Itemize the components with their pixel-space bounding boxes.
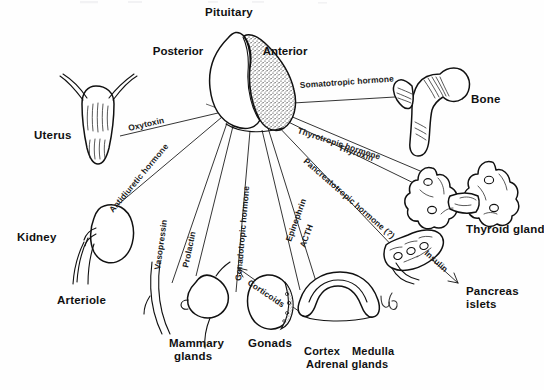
adrenal-organ xyxy=(298,272,379,321)
label-pituitary: Pituitary xyxy=(205,6,253,18)
label-pancreas-line2: islets xyxy=(466,298,497,310)
label-bone: Bone xyxy=(471,93,501,105)
scan-artifact-row xyxy=(80,1,327,4)
label-hormone-antidiuretic: Antidiuretic hormone xyxy=(107,141,171,214)
label-hormone-somatotropic: Somatotropic hormone xyxy=(299,73,394,90)
handwritten-mark xyxy=(381,293,397,310)
label-pancreas-line1: Pancreas xyxy=(466,285,519,297)
label-uterus: Uterus xyxy=(34,129,72,141)
label-arteriole: Arteriole xyxy=(57,294,106,306)
label-hormone-pancreatotropic: Pancreatotropic hormone (?) xyxy=(302,156,397,241)
label-posterior-lobe: Posterior xyxy=(153,45,204,57)
label-adrenal-glands: Adrenal glands xyxy=(306,358,388,370)
label-anterior-lobe: Anterior xyxy=(263,45,308,57)
label-hormone-gonadotropic: Gonadotropic hormone xyxy=(233,185,251,281)
bone-organ xyxy=(393,68,469,156)
uterus-organ xyxy=(60,74,137,164)
label-mammary-glands-line2: glands xyxy=(174,350,212,362)
mammary-organ xyxy=(181,262,230,348)
label-adrenal-cortex: Cortex xyxy=(304,345,341,357)
endocrine-diagram: Pituitary Posterior Anterior Uterus Kidn… xyxy=(0,0,544,390)
label-mammary-glands-line1: Mammary xyxy=(169,337,224,349)
label-hormone-acth: ACTH xyxy=(297,223,314,249)
label-thyroid-gland: Thyroid gland xyxy=(466,223,544,235)
label-gonads: Gonads xyxy=(248,337,292,349)
thyroid-organ xyxy=(405,162,519,229)
arteriole-organ xyxy=(144,262,170,334)
label-hormone-vasopressin: Vasopressin xyxy=(152,219,169,270)
kidney-organ xyxy=(73,205,134,284)
label-hormone-prolactin: Prolactin xyxy=(180,230,197,268)
anatomical-figure: Pituitary Posterior Anterior Uterus Kidn… xyxy=(0,0,544,390)
label-adrenal-medulla: Medulla xyxy=(352,345,395,357)
label-kidney: Kidney xyxy=(17,231,57,243)
